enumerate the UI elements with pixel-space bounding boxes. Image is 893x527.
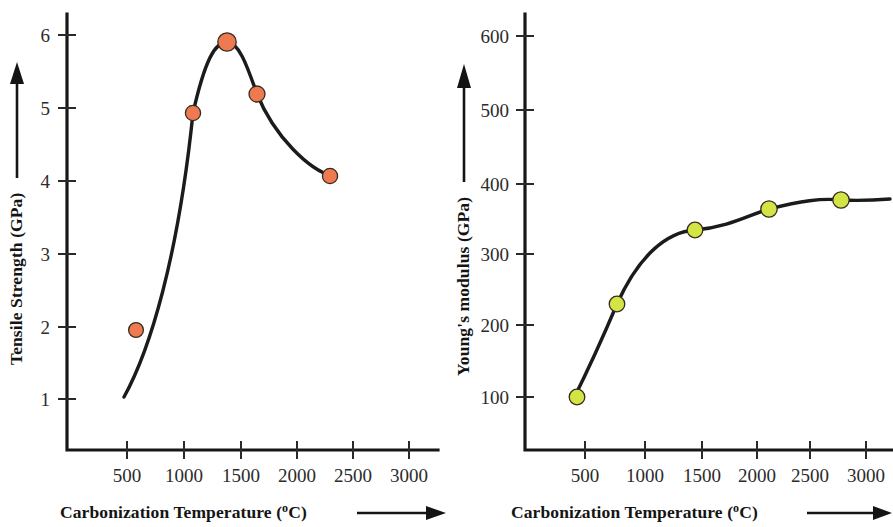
y-axis-title: Tensile Strength (GPa) <box>6 193 26 365</box>
data-point-marker[interactable] <box>185 105 200 120</box>
youngs-modulus-svg: Young's modulus (GPa) 600 500 400 300 20… <box>443 0 893 527</box>
x-tick-label: 3000 <box>390 465 428 486</box>
tensile-strength-chart: Tensile Strength (GPa) 6 5 4 3 2 1 <box>0 0 450 527</box>
y-tick-label: 300 <box>481 244 510 265</box>
y-tick-label: 600 <box>481 26 510 47</box>
y-tick-label: 200 <box>481 315 510 336</box>
x-axis-title: Carbonization Temperature (oC) <box>60 501 307 522</box>
tensile-strength-curve <box>124 42 332 397</box>
x-tick-label: 1500 <box>683 465 721 486</box>
data-point-marker[interactable] <box>569 389 585 405</box>
data-points <box>569 192 849 405</box>
x-tick-label: 500 <box>113 465 142 486</box>
x-axis-arrow-icon <box>807 506 892 520</box>
x-tick-label: 2000 <box>738 465 776 486</box>
figure-container: Tensile Strength (GPa) 6 5 4 3 2 1 <box>0 0 893 527</box>
x-tick-label: 2500 <box>334 465 372 486</box>
y-axis-arrow-icon <box>457 64 471 182</box>
y-tick-label: 5 <box>41 98 51 119</box>
data-point-marker[interactable] <box>609 296 625 312</box>
data-point-marker[interactable] <box>218 33 236 51</box>
x-tick-label: 3000 <box>847 465 885 486</box>
x-tick-label: 500 <box>571 465 600 486</box>
x-tick-label: 2500 <box>791 465 829 486</box>
data-point-marker[interactable] <box>322 168 337 183</box>
x-tick-label: 1000 <box>165 465 203 486</box>
y-tick-label: 4 <box>41 171 51 192</box>
y-axis-title: Young's modulus (GPa) <box>453 197 473 376</box>
x-axis-tick-labels: 500 1000 1500 2000 2500 3000 <box>113 465 428 486</box>
tensile-strength-svg: Tensile Strength (GPa) 6 5 4 3 2 1 <box>0 0 450 527</box>
data-point-marker[interactable] <box>249 86 265 102</box>
x-axis-title: Carbonization Temperature (oC) <box>511 501 758 522</box>
x-axis-tick-labels: 500 1000 1500 2000 2500 3000 <box>571 465 885 486</box>
x-axis-arrow-icon <box>357 506 446 520</box>
y-axis-tick-labels: 6 5 4 3 2 1 <box>41 25 51 410</box>
y-tick-label: 2 <box>41 317 51 338</box>
data-point-marker[interactable] <box>129 323 144 338</box>
y-tick-label: 1 <box>41 389 51 410</box>
y-tick-label: 3 <box>41 244 51 265</box>
y-tick-label: 100 <box>481 387 510 408</box>
y-tick-label: 500 <box>481 100 510 121</box>
y-axis-tick-labels: 600 500 400 300 200 100 <box>481 26 510 408</box>
y-axis-arrow-icon <box>10 62 24 178</box>
y-tick-label: 400 <box>481 174 510 195</box>
data-point-marker[interactable] <box>833 192 849 208</box>
data-point-marker[interactable] <box>761 201 777 217</box>
x-tick-label: 2000 <box>278 465 316 486</box>
youngs-modulus-chart: Young's modulus (GPa) 600 500 400 300 20… <box>443 0 893 527</box>
x-tick-label: 1500 <box>222 465 260 486</box>
data-point-marker[interactable] <box>687 222 703 238</box>
data-points <box>129 33 338 338</box>
x-tick-label: 1000 <box>626 465 664 486</box>
y-tick-label: 6 <box>41 25 51 46</box>
